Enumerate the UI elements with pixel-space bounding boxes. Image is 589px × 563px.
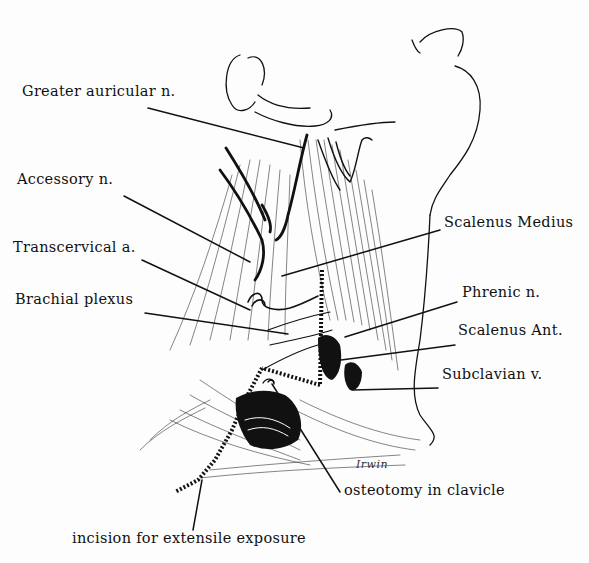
- artist-signature: Irwin: [356, 458, 388, 471]
- label-accessory-nerve: Accessory n.: [17, 172, 113, 187]
- external-jugular-vein: [318, 138, 372, 190]
- label-phrenic-nerve: Phrenic n.: [462, 285, 540, 300]
- label-brachial-plexus: Brachial plexus: [15, 292, 133, 307]
- label-subclavian-vein: Subclavian v.: [442, 367, 542, 382]
- ear-outline: [226, 55, 331, 126]
- nerve-strokes: [220, 135, 307, 280]
- label-greater-auricular-nerve: Greater auricular n.: [22, 84, 175, 99]
- label-scalenus-medius: Scalenus Medius: [444, 215, 573, 230]
- osteotomy-mark: [263, 379, 274, 384]
- incision-dotted-line: [175, 270, 322, 492]
- anatomy-figure: Greater auricular n. Accessory n. Transc…: [0, 0, 589, 563]
- leader-lines: [124, 108, 457, 530]
- label-scalenus-anterior: Scalenus Ant.: [458, 323, 563, 338]
- transcervical-artery: [248, 293, 318, 309]
- label-incision-for-extensile-exposure: incision for extensile exposure: [72, 531, 306, 546]
- label-transcervical-artery: Transcervical a.: [13, 240, 136, 255]
- label-osteotomy-in-clavicle: osteotomy in clavicle: [344, 483, 505, 498]
